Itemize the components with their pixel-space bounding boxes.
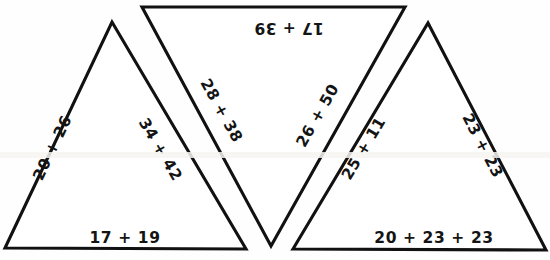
worksheet-canvas: 20 + 26 34 + 42 17 + 19 17 + 39 28 + 38 … [0,0,550,260]
triangle-right-label-base: 20 + 23 + 23 [374,229,493,247]
triangle-middle-label-top-side: 17 + 39 [254,19,324,37]
triangles-diagram: 20 + 26 34 + 42 17 + 19 17 + 39 28 + 38 … [0,0,550,260]
triangle-left-label-base: 17 + 19 [89,229,160,247]
